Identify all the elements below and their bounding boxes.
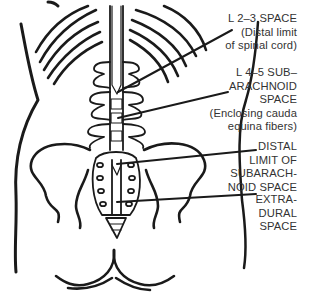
buttocks xyxy=(56,250,174,290)
ribs-left xyxy=(36,6,102,84)
label-l2-3-space: L 2–3 SPACE (Distal limit of spinal cord… xyxy=(225,12,297,53)
lumbar-vertebrae xyxy=(88,62,145,148)
label-distal-limit-subarachnoid: DISTAL LIMIT OF SUBARACH- NOID SPACE xyxy=(228,140,297,194)
ribs-right xyxy=(130,6,206,82)
spinal-canal xyxy=(110,6,123,150)
sacrum xyxy=(93,152,140,238)
label-l4-5-subarachnoid-space: L 4–5 SUB– ARACHNOID SPACE (Enclosing ca… xyxy=(210,66,297,134)
label-extradural-space: EXTRA- DURAL SPACE xyxy=(255,193,297,234)
